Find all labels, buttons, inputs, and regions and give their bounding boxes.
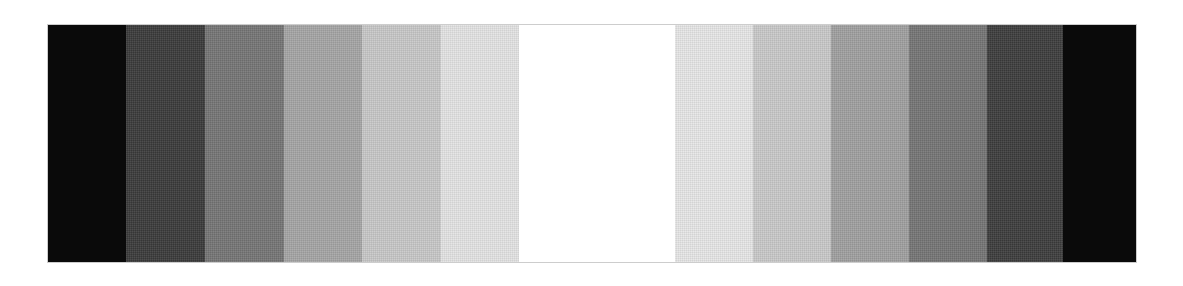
wedge-step-11 bbox=[831, 25, 909, 262]
wedge-step-7 bbox=[519, 25, 597, 262]
wedge-step-13 bbox=[987, 25, 1063, 262]
wedge-step-3 bbox=[205, 25, 284, 262]
wedge-step-10 bbox=[753, 25, 831, 262]
wedge-step-14 bbox=[1063, 25, 1136, 262]
wedge-step-4 bbox=[284, 25, 362, 262]
wedge-step-5 bbox=[362, 25, 441, 262]
wedge-step-12 bbox=[909, 25, 987, 262]
grayscale-step-wedge bbox=[48, 25, 1136, 262]
wedge-step-2 bbox=[126, 25, 205, 262]
wedge-step-6 bbox=[441, 25, 519, 262]
screenshot-canvas bbox=[0, 0, 1183, 286]
wedge-step-8 bbox=[597, 25, 675, 262]
wedge-step-1 bbox=[48, 25, 126, 262]
wedge-step-9 bbox=[675, 25, 753, 262]
